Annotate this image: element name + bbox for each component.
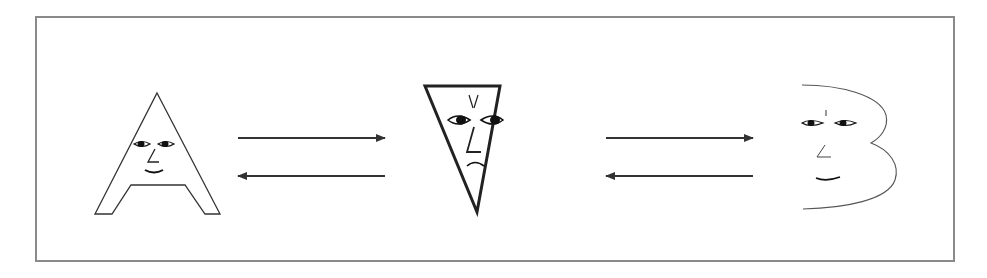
triangle-brow-marks-icon (469, 95, 478, 108)
letter-b-outline (802, 85, 896, 209)
diagram-canvas (0, 0, 987, 278)
letter-b-smile-icon (816, 177, 840, 180)
letter-a-smile-icon (145, 170, 163, 173)
letter-a-nose-icon (148, 149, 159, 162)
inverted-triangle-figure (425, 86, 503, 212)
letter-a-eyes-icon (134, 141, 174, 147)
letter-a-outline (95, 93, 220, 214)
letter-b-figure (802, 85, 896, 209)
letter-a-figure (95, 93, 220, 214)
triangle-nose-icon (467, 127, 481, 152)
triangle-eyes-icon (448, 116, 503, 125)
triangle-frown-icon (467, 163, 484, 167)
inverted-triangle-outline (425, 86, 500, 212)
letter-b-eyes-icon (802, 120, 856, 126)
letter-b-nose-icon (817, 145, 831, 157)
